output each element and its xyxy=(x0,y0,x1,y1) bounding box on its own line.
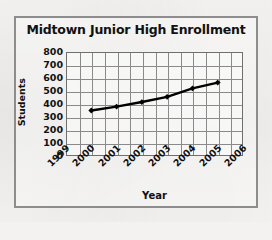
y-axis-tick-label: 800 xyxy=(43,46,63,57)
y-axis-tick-label: 600 xyxy=(43,72,63,83)
data-point-marker xyxy=(164,94,170,100)
enrollment-line xyxy=(91,83,217,111)
y-axis-tick-labels: 8007006005004003002001000 xyxy=(30,46,63,162)
data-point-marker xyxy=(215,80,221,86)
y-axis-tick-label: 400 xyxy=(43,98,63,109)
data-point-marker xyxy=(190,86,196,92)
y-axis-tick-label: 0 xyxy=(56,150,63,161)
y-axis-tick-label: 700 xyxy=(43,59,63,70)
y-axis-title: Students xyxy=(16,78,27,126)
data-point-marker xyxy=(88,108,94,114)
chart-title: Midtown Junior High Enrollment xyxy=(14,22,258,37)
y-axis-tick-label: 200 xyxy=(43,124,63,135)
y-axis-tick-label: 100 xyxy=(43,137,63,148)
y-axis-tick-label: 500 xyxy=(43,85,63,96)
enrollment-line-series xyxy=(66,52,243,156)
x-axis-title: Year xyxy=(66,190,243,201)
data-point-marker xyxy=(139,99,145,105)
data-series-layer xyxy=(66,52,243,156)
y-axis-tick-label: 300 xyxy=(43,111,63,122)
data-point-marker xyxy=(114,104,120,110)
